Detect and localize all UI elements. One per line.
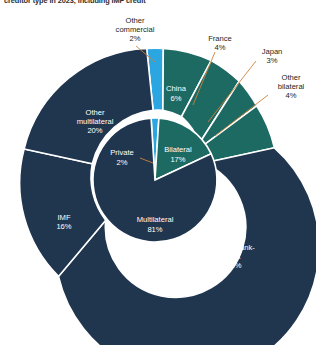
callout-japan-line1: Japan — [252, 47, 292, 56]
callout-france-line1: France — [198, 34, 242, 43]
callout-france-line2: 4% — [198, 43, 242, 52]
callout-other-bilateral-line2: bilateral — [268, 82, 314, 91]
label-multilateral-line1: Multilateral — [137, 215, 174, 224]
callout-japan-line2: 3% — [252, 56, 292, 65]
sunburst-chart: Other multilateral 20% IMF 16% World Ban… — [0, 0, 316, 345]
label-world-bank-ida-line3: 45% — [226, 261, 241, 270]
label-other-multilateral-line2: multilateral — [77, 117, 114, 126]
label-china-line1: China — [166, 84, 187, 93]
callout-other-commercial-line3: 2% — [104, 34, 166, 43]
callout-japan: Japan 3% — [252, 47, 292, 65]
label-other-multilateral-line1: Other — [86, 108, 105, 117]
callout-other-bilateral-line1: Other — [268, 73, 314, 82]
label-multilateral-line2: 81% — [147, 225, 162, 234]
callout-other-bilateral: Other bilateral 4% — [268, 73, 314, 101]
label-imf-line2: 16% — [56, 222, 71, 231]
label-private-line1: Private — [110, 148, 134, 157]
callout-other-commercial: Other commercial 2% — [104, 16, 166, 44]
callout-france: France 4% — [198, 34, 242, 52]
label-bilateral-line2: 17% — [170, 155, 185, 164]
label-bilateral-line1: Bilateral — [164, 145, 192, 154]
callout-other-commercial-line1: Other — [104, 16, 166, 25]
label-world-bank-ida-line2: IDA — [228, 252, 242, 261]
callout-other-commercial-line2: commercial — [104, 25, 166, 34]
label-other-multilateral-line3: 20% — [87, 126, 102, 135]
callout-other-bilateral-line3: 4% — [268, 91, 314, 100]
label-world-bank-ida-line1: World Bank- — [213, 243, 255, 252]
label-china-line2: 6% — [171, 94, 182, 103]
label-private-line2: 2% — [117, 158, 128, 167]
label-imf-line1: IMF — [57, 213, 70, 222]
